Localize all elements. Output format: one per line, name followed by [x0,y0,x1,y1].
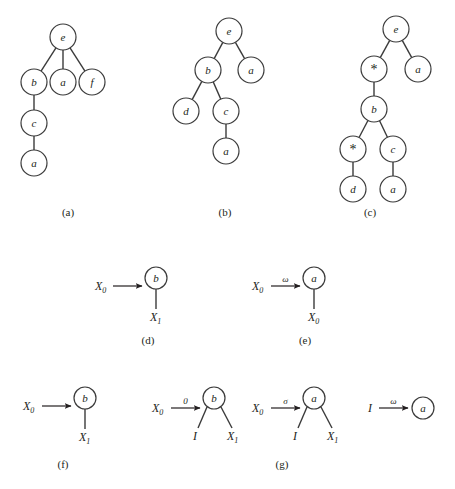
rule-output-variable-subscript: 1 [234,436,238,445]
tree-node[interactable]: d [173,98,199,124]
tree-node[interactable]: a [213,138,239,164]
node-label: c [391,143,396,155]
tree-node[interactable]: e [216,18,242,44]
rule-output-variable-subscript: 1 [157,317,161,326]
rule-output-variable-subscript: 1 [86,437,90,446]
tree-node[interactable]: e [50,24,76,50]
node-label: e [61,31,66,43]
rule-output-variable-subscript: 0 [315,317,319,326]
tree-node[interactable]: * [340,136,366,162]
tree-node[interactable]: c [213,98,239,124]
node-label: e [227,25,232,37]
rule-output-variable-base: I [192,429,198,443]
subfigure-caption: (f) [58,458,69,471]
node-label: c [32,117,37,129]
rule-source-variable-subscript: 0 [259,286,263,295]
rule-source-variable: X0 [94,279,106,295]
term-graph-figure: ebafcaebadcae*ab*cda X0bX1X0ωaX0X0bX1X00… [0,0,455,489]
rewrite-rule-rule-f: X0bX1 [22,387,96,446]
tree-node[interactable]: a [380,176,406,202]
rule-source-variable-subscript: 0 [30,406,34,415]
rewrite-rules-layer: X0bX1X0ωaX0X0bX1X00bIX1X0σaIX1Iωa [22,267,434,446]
node-label: * [371,62,378,77]
rule-node[interactable]: b [145,267,167,289]
subfigure-caption: (a) [62,206,75,219]
tree-edge [214,42,223,58]
rewrite-rule-rule-g1: X00bIX1 [151,387,238,445]
rule-output-variable: X1 [149,310,161,326]
node-label: a [60,76,66,88]
rewrite-rule-rule-g2: X0σaIX1 [251,387,338,445]
node-label: b [31,76,37,88]
tree-node[interactable]: a [405,56,431,82]
tree-edge [402,40,411,57]
rule-leg [298,407,307,428]
rule-arrow-label: 0 [183,396,188,406]
tree-node[interactable]: a [238,57,264,83]
rule-output-variable: I [192,429,198,443]
node-label: a [415,63,421,75]
tree-node[interactable]: b [195,57,221,83]
node-label: a [390,183,396,195]
tree-tree-b-nodes: ebadca [173,18,264,164]
tree-node[interactable]: f [79,69,105,95]
tree-node[interactable]: d [340,176,366,202]
tree-edge [192,81,202,99]
tree-edge [41,48,56,71]
rule-source-variable: X0 [251,401,263,417]
node-label: a [311,272,317,284]
rule-output-variable: X1 [326,429,338,445]
subfigure-caption: (d) [142,334,155,347]
rule-node[interactable]: a [303,267,325,289]
node-label: a [420,402,426,414]
node-label: b [153,272,159,284]
tree-node[interactable]: c [380,136,406,162]
tree-edge [235,42,244,58]
rule-arrow-label: ω [282,274,288,284]
rule-node[interactable]: a [412,397,434,419]
rule-output-variable: I [292,429,298,443]
subfigure-caption: (g) [276,458,289,471]
node-label: a [311,392,317,404]
rule-leg [321,407,332,428]
tree-node[interactable]: b [361,96,387,122]
rule-node[interactable]: a [303,387,325,409]
rewrite-rule-rule-d: X0bX1 [94,267,167,326]
tree-node[interactable]: e [383,16,409,42]
node-label: a [223,145,229,157]
tree-node[interactable]: a [50,69,76,95]
node-label: d [183,105,189,117]
tree-edge [359,121,368,138]
tree-node[interactable]: a [21,150,47,176]
rule-source-variable-subscript: 0 [259,408,263,417]
tree-nodes-layer: ebafcaebadcae*ab*cda [21,16,431,202]
node-label: d [350,183,356,195]
rule-source-variable: X0 [251,279,263,295]
rule-source-variable-subscript: 0 [159,408,163,417]
tree-tree-b-edges [192,42,244,138]
rule-output-variable-subscript: 1 [334,436,338,445]
rule-source-variable: I [367,401,373,415]
node-label: b [205,64,211,76]
node-label: b [211,392,217,404]
node-label: e [394,23,399,35]
subfigure-caption: (b) [219,206,232,219]
tree-edge [213,82,221,99]
rule-leg [198,407,207,428]
rule-leg [221,407,232,428]
rule-node[interactable]: b [74,387,96,409]
node-label: c [224,105,229,117]
node-label: b [82,392,88,404]
subfigure-caption: (c) [364,206,377,219]
subfigure-caption: (e) [299,334,312,347]
tree-node[interactable]: b [21,69,47,95]
rule-node[interactable]: b [203,387,225,409]
rewrite-rule-rule-g3: Iωa [367,396,434,419]
tree-node[interactable]: * [361,56,387,82]
tree-node[interactable]: c [21,110,47,136]
node-label: a [31,157,37,169]
rule-source-variable: X0 [151,401,163,417]
tree-tree-a-edges [34,48,85,150]
tree-edge [70,48,85,71]
rule-arrow-label: σ [283,396,288,406]
